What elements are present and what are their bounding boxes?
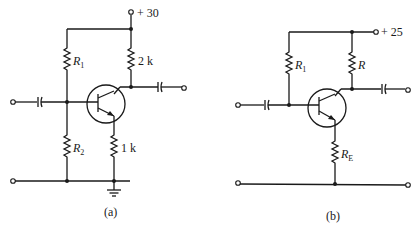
input-terminal — [11, 100, 16, 105]
svg-text:RE: RE — [340, 147, 353, 163]
resistor-r1: R1 — [286, 32, 306, 105]
circuit-a: + 30 R1 2 k — [11, 6, 187, 219]
resistor-r2: R2 — [64, 102, 84, 181]
svg-text:R1: R1 — [72, 54, 84, 70]
circuit-b: + 25 R1 R — [236, 25, 411, 223]
resistor-r1: R1 — [64, 29, 84, 102]
common-terminal-right — [406, 183, 411, 188]
output-terminal — [182, 86, 187, 91]
npn-transistor — [308, 89, 346, 127]
r1-sub: 1 — [302, 65, 306, 74]
svg-text:R1: R1 — [294, 58, 306, 74]
resistor-re: RE — [332, 120, 353, 184]
base-node — [287, 103, 291, 107]
ground-icon — [107, 181, 121, 196]
common-terminal — [11, 179, 16, 184]
resistor-rc: R — [349, 32, 366, 89]
caption-b: (b) — [326, 209, 340, 223]
r2-sub: 2 — [80, 148, 84, 157]
resistor-re: 1 k — [111, 116, 136, 181]
bottom-rail — [240, 184, 406, 185]
supply-terminal — [129, 10, 134, 15]
supply-label: + 25 — [381, 25, 403, 39]
re-value: 1 k — [121, 141, 136, 155]
common-terminal-left — [236, 181, 241, 186]
resistor-rc: 2 k — [128, 29, 153, 87]
svg-text:R2: R2 — [72, 141, 84, 157]
supply-terminal — [374, 30, 379, 35]
rc-value: 2 k — [138, 54, 153, 68]
re-sub: E — [348, 154, 353, 163]
output-terminal — [406, 88, 411, 93]
caption-a: (a) — [104, 205, 117, 219]
r1-sub: 1 — [80, 61, 84, 70]
supply-label: + 30 — [137, 6, 159, 20]
input-terminal — [236, 103, 241, 108]
rc-name: R — [357, 58, 366, 72]
npn-transistor — [87, 85, 125, 123]
